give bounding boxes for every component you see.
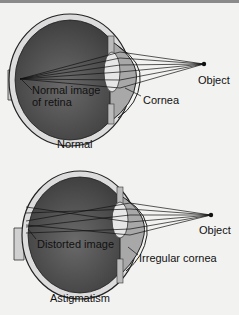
- astigmatism-eye-diagram: Object Distorted image Irregular cornea …: [0, 155, 239, 315]
- distorted-image-label: Distorted image: [37, 238, 114, 250]
- object-label: Object: [198, 74, 230, 86]
- diagram-caption: Astigmatism: [50, 292, 110, 304]
- diagram-caption: Normal: [57, 138, 92, 150]
- object-label: Object: [199, 224, 231, 236]
- irregular-cornea-label: Irregular cornea: [139, 252, 217, 264]
- cornea-label: Cornea: [143, 94, 179, 106]
- retina-label-line1: Normal image: [32, 84, 100, 96]
- retina-label-line2: of retina: [32, 96, 72, 108]
- normal-eye-diagram: Object Normal image of retina Cornea Nor…: [0, 0, 239, 155]
